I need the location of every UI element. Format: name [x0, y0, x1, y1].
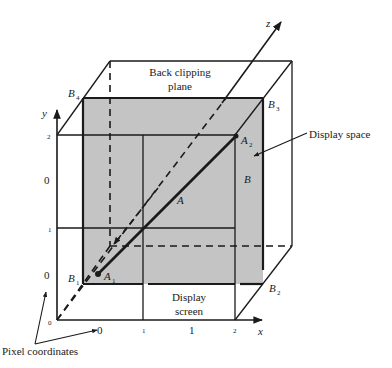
y-tick-large-0-lower: 0 — [44, 269, 50, 281]
svg-text:3: 3 — [276, 105, 280, 113]
x-tick-1: 1 — [142, 327, 146, 335]
pixel-coordinates-label: Pixel coordinates — [2, 345, 78, 357]
pixel-coords-callout-x — [35, 330, 97, 344]
svg-text:B: B — [68, 87, 75, 99]
back-clipping-plane-label-2: plane — [168, 80, 192, 92]
svg-text:1: 1 — [112, 277, 116, 285]
x-tick-large-1: 1 — [189, 324, 195, 336]
svg-text:A: A — [240, 134, 248, 146]
svg-text:1: 1 — [76, 279, 80, 287]
svg-text:B: B — [68, 272, 75, 284]
svg-text:4: 4 — [76, 94, 80, 102]
label-b: B — [244, 173, 251, 185]
origin-tick-0: 0 — [48, 319, 52, 327]
x-tick-large-0: 0 — [97, 324, 103, 336]
svg-text:B: B — [269, 282, 276, 294]
svg-text:B: B — [268, 98, 275, 110]
y-axis-label: y — [41, 107, 47, 119]
display-space-label: Display space — [309, 128, 371, 140]
label-a: A — [176, 194, 184, 206]
z-axis — [222, 22, 281, 103]
display-screen-label-1: Display — [172, 291, 207, 303]
viewing-volume-diagram: Back clipping plane Display space Displa… — [0, 0, 392, 368]
svg-text:A: A — [103, 270, 111, 282]
pixel-coords-callout-y — [35, 292, 46, 344]
back-clipping-plane-label-1: Back clipping — [149, 66, 211, 78]
svg-text:2: 2 — [277, 289, 281, 297]
y-tick-2: 2 — [47, 133, 51, 141]
display-screen-label-2: screen — [175, 305, 204, 317]
label-b1: B 1 — [68, 272, 80, 287]
y-tick-large-0-upper: 0 — [44, 174, 50, 186]
svg-text:2: 2 — [249, 141, 253, 149]
x-axis-label: x — [257, 325, 263, 337]
label-b3: B 3 — [268, 98, 280, 113]
z-axis-label: z — [265, 17, 271, 29]
x-tick-2: 2 — [233, 327, 237, 335]
label-b4: B 4 — [68, 87, 80, 102]
point-a2 — [234, 134, 239, 139]
label-b2: B 2 — [269, 282, 281, 297]
point-a1 — [95, 271, 101, 277]
y-tick-1: 1 — [48, 226, 52, 234]
